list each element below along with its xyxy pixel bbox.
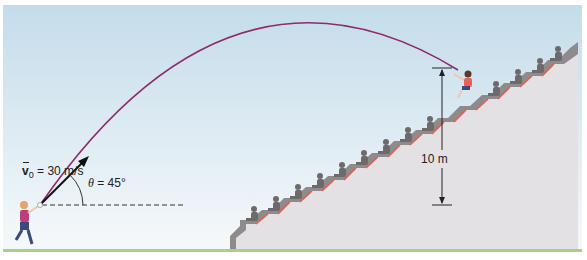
angle-label: θ = 45° (88, 176, 126, 191)
velocity-value: = 30 m/s (34, 164, 84, 178)
diagram-canvas (0, 0, 587, 260)
height-label: 10 m (421, 152, 448, 166)
velocity-symbol: v (22, 164, 29, 178)
vector-overbar (23, 162, 29, 163)
angle-value: = 45° (94, 176, 126, 190)
velocity-label: v0 = 30 m/s (22, 164, 83, 180)
projectile-diagram: v0 = 30 m/s θ = 45° 10 m (0, 0, 587, 260)
ground-line (3, 249, 582, 252)
